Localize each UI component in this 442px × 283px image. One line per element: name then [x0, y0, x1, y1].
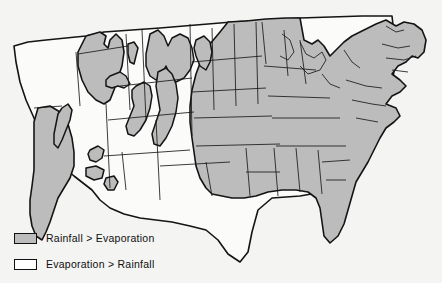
legend-swatch-white: [14, 259, 37, 270]
legend-swatch-gray: [14, 233, 37, 244]
legend-item-rainfall-greater: Rainfall > Evaporation: [14, 228, 155, 248]
patch-mogollon-rim: [86, 166, 104, 180]
map-legend: Rainfall > Evaporation Evaporation > Rai…: [14, 228, 155, 280]
legend-label-evaporation-greater: Evaporation > Rainfall: [46, 258, 155, 270]
legend-item-evaporation-greater: Evaporation > Rainfall: [14, 254, 155, 274]
legend-label-rainfall-greater: Rainfall > Evaporation: [46, 232, 155, 244]
